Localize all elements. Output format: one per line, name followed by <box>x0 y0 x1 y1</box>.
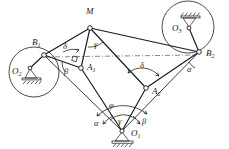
ground-support-O3 <box>181 13 200 30</box>
linkage-figure: M B1 B2 A1 A2 O1 O2 O3 γ δ β δ α φ <box>0 0 229 149</box>
joint-O2 <box>28 66 32 70</box>
construction-lines <box>45 55 196 57</box>
label-beta-at-O1: β <box>141 116 147 126</box>
label-O2-sub: 2 <box>19 71 22 77</box>
arc-beta-O1 <box>133 116 140 124</box>
ground-bar-O1 <box>112 141 133 143</box>
joint-O3 <box>187 26 191 30</box>
joint-M <box>88 26 93 31</box>
joint-O1 <box>120 129 124 133</box>
label-gamma-at-O1: γ <box>118 116 122 126</box>
label-A2: A2 <box>151 86 161 97</box>
ground-hatching-O3 <box>181 13 200 16</box>
joint-A2 <box>144 86 149 91</box>
label-A1-sub: 1 <box>93 67 96 73</box>
link-M-B2 <box>90 28 199 52</box>
ground-bar-O3 <box>181 16 200 18</box>
joint-A1 <box>79 66 84 71</box>
link-M-A2 <box>90 28 146 88</box>
joint-B2 <box>197 50 202 55</box>
label-delta-at-M: δ <box>63 41 68 51</box>
link-A1-O1 <box>81 68 122 131</box>
label-M: M <box>85 6 94 16</box>
label-delta-at-A2: δ <box>140 60 145 70</box>
link-B1-O2 <box>30 55 44 68</box>
label-phi-at-O1: φ <box>109 100 114 110</box>
angle-arcs <box>62 42 195 124</box>
point-labels: M B1 B2 A1 A2 O1 O2 O3 <box>12 6 215 139</box>
pivot-triangle-O3 <box>183 18 196 27</box>
link-M-B1 <box>44 28 90 55</box>
label-gamma-at-M: γ <box>94 39 98 49</box>
ground-hatching-O1 <box>113 144 132 148</box>
label-B1: B1 <box>32 37 41 48</box>
figure-canvas: M B1 B2 A1 A2 O1 O2 O3 γ δ β δ α φ <box>0 0 229 149</box>
ground-bar-O2 <box>22 78 41 80</box>
angle-labels: γ δ β δ α φ γ α β <box>63 39 192 128</box>
dashdot-line-B1-B2 <box>45 55 196 57</box>
label-O3: O3 <box>172 23 182 34</box>
label-alpha-at-B2: α <box>187 64 192 74</box>
ground-hatching-O2 <box>23 81 41 84</box>
ground-support-O1 <box>112 129 133 147</box>
label-B2-sub: 2 <box>212 53 215 59</box>
label-A1: A1 <box>86 62 96 73</box>
ground-support-O2 <box>22 66 41 84</box>
label-O2: O2 <box>12 66 22 77</box>
link-B2-O3 <box>189 28 199 52</box>
label-A2-sub: 2 <box>158 91 161 97</box>
label-O3-sub: 3 <box>178 28 182 34</box>
label-O1: O1 <box>131 128 141 139</box>
label-B1-sub: 1 <box>38 42 41 48</box>
label-O1-sub: 1 <box>138 133 141 139</box>
label-M-text: M <box>85 6 94 16</box>
right-angle-mark-A1 <box>72 56 78 62</box>
label-B2: B2 <box>206 48 215 59</box>
linkage-bars <box>30 28 199 131</box>
label-beta-at-A1: β <box>63 66 69 76</box>
joint-B1 <box>42 53 47 58</box>
arrow-delta-M <box>75 49 79 52</box>
pivot-triangle-O2 <box>25 69 37 78</box>
label-alpha-at-O1: α <box>94 118 99 128</box>
